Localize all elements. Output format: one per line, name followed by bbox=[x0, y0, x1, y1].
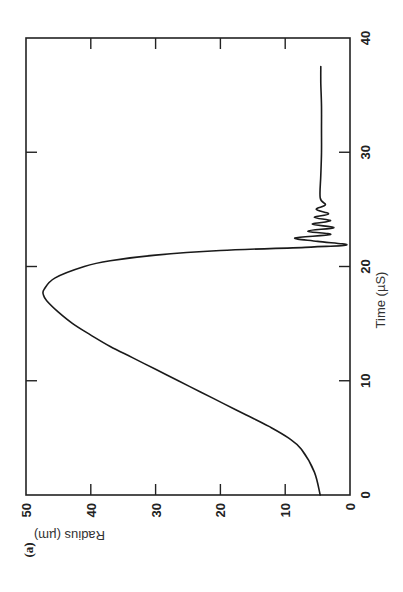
radius-time-chart: 01020304050010203040 Radius (µm) Time (µ… bbox=[0, 0, 403, 592]
time-tick-label: 40 bbox=[358, 31, 373, 45]
x-axis-label: Time (µS) bbox=[373, 272, 388, 329]
time-tick-label: 20 bbox=[358, 259, 373, 273]
time-tick-label: 10 bbox=[358, 374, 373, 388]
radius-tick-label: 30 bbox=[149, 503, 164, 517]
radius-tick-label: 50 bbox=[19, 503, 34, 517]
time-tick-label: 0 bbox=[358, 491, 373, 498]
time-tick-label: 30 bbox=[358, 145, 373, 159]
plot-frame bbox=[26, 38, 350, 495]
radius-tick-label: 40 bbox=[84, 503, 99, 517]
radius-tick-label: 20 bbox=[213, 503, 228, 517]
y-axis-label: Radius (µm) bbox=[34, 528, 105, 543]
tick-labels: 01020304050010203040 bbox=[19, 31, 373, 518]
panel-label: (a) bbox=[21, 542, 36, 557]
radius-tick-label: 0 bbox=[343, 503, 358, 510]
axis-ticks bbox=[26, 38, 350, 495]
radius-tick-label: 10 bbox=[278, 503, 293, 517]
radius-curve bbox=[43, 67, 347, 495]
